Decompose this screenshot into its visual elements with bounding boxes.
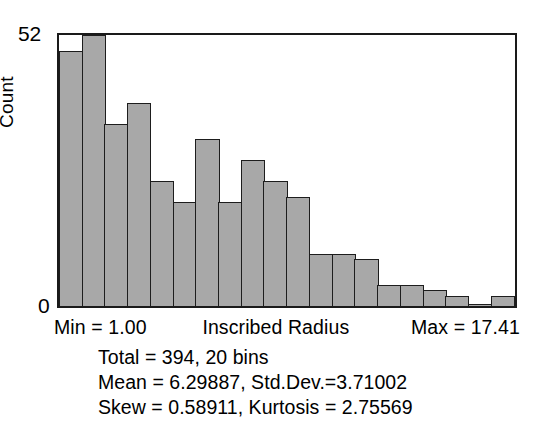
histogram-bar xyxy=(354,259,378,306)
histogram-bar xyxy=(400,285,424,306)
plot-area xyxy=(57,33,517,308)
histogram-bar xyxy=(195,139,219,306)
histogram-bar xyxy=(173,202,197,306)
x-axis-title: Inscribed Radius xyxy=(202,316,349,339)
histogram-bar xyxy=(263,181,287,306)
y-axis-title: Count xyxy=(0,76,18,128)
histogram-bar xyxy=(377,285,401,306)
x-axis-min-label: Min = 1.00 xyxy=(54,316,147,339)
statistics-block: Total = 394, 20 bins Mean = 6.29887, Std… xyxy=(98,345,413,420)
histogram-bar xyxy=(150,181,174,306)
histogram-bar xyxy=(82,35,106,306)
y-axis-tick-max: 52 xyxy=(18,22,41,46)
histogram-bar xyxy=(423,290,447,306)
histogram-bars xyxy=(59,35,515,306)
histogram-figure: 52 0 Count Min = 1.00 Inscribed Radius M… xyxy=(0,0,544,443)
stat-skew-kurtosis: Skew = 0.58911, Kurtosis = 2.75569 xyxy=(98,395,413,420)
y-axis-tick-min: 0 xyxy=(38,294,50,318)
x-axis-caption-row: Min = 1.00 Inscribed Radius Max = 17.41 xyxy=(52,316,522,339)
histogram-bar xyxy=(241,160,265,306)
histogram-bar xyxy=(468,304,492,306)
histogram-bar xyxy=(59,51,83,306)
histogram-bar xyxy=(445,296,469,306)
histogram-bar xyxy=(491,296,515,306)
histogram-bar xyxy=(218,202,242,306)
stat-total-bins: Total = 394, 20 bins xyxy=(98,345,413,370)
histogram-bar xyxy=(332,254,356,306)
stat-mean-stddev: Mean = 6.29887, Std.Dev.=3.71002 xyxy=(98,370,413,395)
x-axis-max-label: Max = 17.41 xyxy=(411,316,520,339)
histogram-bar xyxy=(127,103,151,306)
histogram-bar xyxy=(286,197,310,306)
histogram-bar xyxy=(309,254,333,306)
histogram-bar xyxy=(104,124,128,306)
